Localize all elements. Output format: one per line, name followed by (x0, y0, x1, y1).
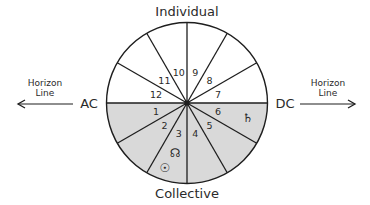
sun-icon: ☉ (160, 161, 171, 175)
horizon-right-label-line1: Horizon (311, 78, 345, 88)
house-number-12: 12 (150, 89, 162, 100)
house-number-10: 10 (173, 67, 185, 78)
house-number-5: 5 (207, 120, 213, 131)
horizon-left-label-line2: Line (36, 88, 55, 98)
title-individual: Individual (155, 4, 218, 19)
house-number-9: 9 (192, 67, 198, 78)
house-number-3: 3 (176, 128, 182, 139)
horizon-right-label-line2: Line (319, 88, 338, 98)
wheel-center-dot (184, 100, 189, 105)
horizon-left-label-line1: Horizon (28, 78, 62, 88)
ascendant-label: AC (80, 96, 98, 111)
house-number-6: 6 (215, 106, 221, 117)
descendant-label: DC (275, 96, 294, 111)
house-number-4: 4 (192, 128, 198, 139)
north-node-icon: ☊ (170, 146, 181, 160)
house-number-1: 1 (153, 106, 159, 117)
house-number-11: 11 (158, 75, 170, 86)
house-number-7: 7 (215, 89, 221, 100)
title-collective: Collective (155, 186, 219, 201)
house-number-2: 2 (161, 120, 167, 131)
saturn-icon: ♄ (243, 111, 254, 125)
house-number-8: 8 (207, 75, 213, 86)
house-wheel-diagram: 123456789101112 Individual Collective AC… (0, 0, 370, 205)
